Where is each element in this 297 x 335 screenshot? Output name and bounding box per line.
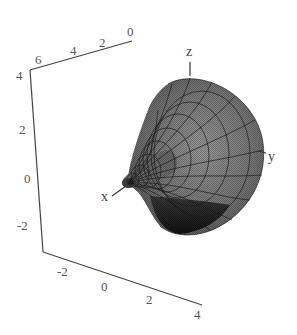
svg-text:2: 2 xyxy=(19,122,26,137)
svg-text:0: 0 xyxy=(127,24,134,39)
left-axis-ticks: 2 0 -2 xyxy=(17,122,31,233)
y-axis-label: y xyxy=(268,149,275,164)
svg-text:4: 4 xyxy=(194,307,201,322)
svg-text:4: 4 xyxy=(70,43,77,58)
svg-text:0: 0 xyxy=(101,279,108,294)
horn-surface xyxy=(122,78,264,235)
z-axis-label: z xyxy=(186,44,192,59)
svg-text:6: 6 xyxy=(35,52,42,67)
svg-text:4: 4 xyxy=(16,68,23,83)
x-axis-label: x xyxy=(101,189,108,204)
svg-text:0: 0 xyxy=(24,171,31,186)
bottom-axis-ticks: -2 0 2 4 xyxy=(57,264,201,322)
svg-text:-2: -2 xyxy=(57,264,68,279)
top-axis-ticks: 6 4 2 0 4 xyxy=(16,24,134,83)
svg-text:2: 2 xyxy=(146,292,153,307)
svg-text:2: 2 xyxy=(99,35,106,50)
surface-plot: 6 4 2 0 4 2 0 -2 -2 0 2 4 xyxy=(0,0,297,335)
svg-text:-2: -2 xyxy=(17,218,28,233)
